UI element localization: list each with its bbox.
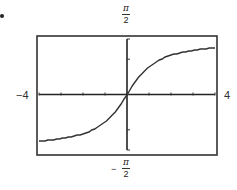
- chart-plot: [0, 0, 237, 190]
